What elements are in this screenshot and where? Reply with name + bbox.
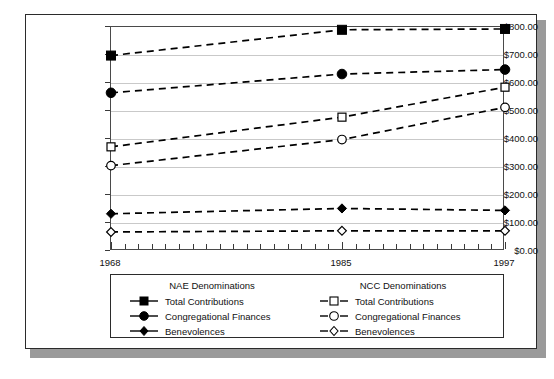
series-4 (107, 83, 509, 151)
x-axis-major-tick (505, 242, 506, 249)
legend-marker-filled-diamond (129, 325, 159, 337)
legend-marker-filled-circle (129, 310, 159, 322)
legend-group-title-nae: NAE Denominations (117, 280, 307, 291)
legend-label-nae-total: Total Contributions (165, 296, 244, 307)
data-point-marker (338, 226, 347, 235)
legend-item-ncc-congregational: Congregational Finances (319, 309, 461, 323)
legend-label-nae-benevolences: Benevolences (165, 326, 225, 337)
series-6 (107, 226, 510, 236)
legend-marker-open-diamond (319, 325, 349, 337)
data-point-marker (337, 25, 346, 34)
legend-item-nae-congregational: Congregational Finances (129, 309, 271, 323)
legend-item-nae-total: Total Contributions (129, 294, 244, 308)
data-point-marker (500, 65, 510, 75)
legend-group-title-ncc: NCC Denominations (307, 280, 499, 291)
legend-item-nae-benevolences: Benevolences (129, 324, 225, 338)
legend-label-ncc-congregational: Congregational Finances (355, 311, 461, 322)
data-point-marker (500, 206, 509, 215)
series-line (111, 231, 505, 232)
series-2 (106, 65, 510, 98)
data-point-marker (107, 143, 115, 151)
legend-column-nae: NAE Denominations Total Contributions Co… (117, 275, 307, 337)
data-point-marker (338, 135, 347, 144)
legend-label-nae-congregational: Congregational Finances (165, 311, 271, 322)
legend-column-ncc: NCC Denominations Total Contributions (307, 275, 499, 337)
chart-outer-frame: $800.00$700.00$600.00$500.00$400.00$300.… (25, 14, 537, 349)
legend-item-ncc-total: Total Contributions (319, 294, 434, 308)
legend-item-ncc-benevolences: Benevolences (319, 324, 415, 338)
series-line (111, 87, 505, 147)
series-5 (107, 103, 510, 170)
y-axis-tick (105, 250, 110, 251)
series-3 (106, 204, 509, 219)
series-layer (111, 27, 505, 251)
data-point-marker (337, 69, 347, 79)
data-point-marker (501, 103, 510, 112)
data-point-marker (501, 24, 510, 33)
series-line (111, 29, 505, 56)
legend-label-ncc-benevolences: Benevolences (355, 326, 415, 337)
data-point-marker (106, 88, 116, 98)
chart-legend: NAE Denominations Total Contributions Co… (110, 274, 504, 338)
chart-figure: $800.00$700.00$600.00$500.00$400.00$300.… (0, 0, 554, 379)
x-axis-tick-label: 1997 (493, 257, 514, 268)
series-1 (107, 24, 510, 60)
data-point-marker (107, 161, 116, 170)
data-point-marker (338, 113, 346, 121)
x-axis-tick-label: 1985 (330, 257, 351, 268)
plot-area (110, 26, 504, 250)
series-line (111, 208, 505, 213)
legend-label-ncc-total: Total Contributions (355, 296, 434, 307)
legend-marker-open-circle (319, 310, 349, 322)
x-axis-tick-label: 1968 (99, 257, 120, 268)
legend-marker-filled-square (129, 295, 159, 307)
plot-wrapper: $800.00$700.00$600.00$500.00$400.00$300.… (26, 15, 538, 275)
data-point-marker (107, 228, 116, 237)
data-point-marker (337, 204, 346, 213)
legend-marker-open-square (319, 295, 349, 307)
series-line (111, 70, 505, 93)
data-point-marker (106, 209, 115, 218)
data-point-marker (501, 83, 509, 91)
series-line (111, 107, 505, 165)
data-point-marker (107, 51, 116, 60)
data-point-marker (501, 226, 510, 235)
